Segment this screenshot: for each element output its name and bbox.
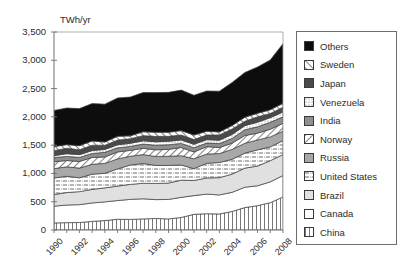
- legend-label: Brazil: [320, 190, 344, 201]
- y-tick-label: 1,000: [2, 167, 46, 178]
- legend-label: India: [320, 115, 341, 126]
- y-tick-label: 500: [2, 196, 46, 207]
- legend-item-canada[interactable]: Canada: [304, 204, 396, 223]
- stacked-area-chart: TWh/yr: [0, 0, 402, 270]
- y-tick-label: 1,500: [2, 139, 46, 150]
- legend-label: Norway: [320, 134, 352, 145]
- legend-swatch-icon: [304, 41, 314, 51]
- legend-item-norway[interactable]: Norway: [304, 130, 396, 149]
- legend-swatch-icon: [304, 227, 314, 237]
- legend-swatch-icon: [304, 60, 314, 70]
- legend-item-others[interactable]: Others: [304, 37, 396, 56]
- legend-label: China: [320, 227, 345, 238]
- legend-label: Canada: [320, 208, 353, 219]
- legend-item-japan[interactable]: Japan: [304, 74, 396, 93]
- legend-item-india[interactable]: India: [304, 111, 396, 130]
- legend-swatch-icon: [304, 134, 314, 144]
- legend-item-venezuela[interactable]: Venezuela: [304, 93, 396, 112]
- legend-item-russia[interactable]: Russia: [304, 149, 396, 168]
- y-tick-label: 3,500: [2, 26, 46, 37]
- y-tick-label: 3,000: [2, 54, 46, 65]
- legend-swatch-icon: [304, 209, 314, 219]
- legend-label: Venezuela: [320, 97, 364, 108]
- legend-swatch-icon: [304, 171, 314, 181]
- y-tick-label: 2,500: [2, 83, 46, 94]
- legend-label: Japan: [320, 78, 346, 89]
- legend-label: United States: [320, 171, 377, 182]
- legend-swatch-icon: [304, 97, 314, 107]
- y-tick-label: 2,000: [2, 111, 46, 122]
- legend-label: Others: [320, 41, 349, 52]
- legend-swatch-icon: [304, 116, 314, 126]
- legend-label: Russia: [320, 152, 349, 163]
- y-tick-label: 0: [2, 224, 46, 235]
- legend-label: Sweden: [320, 59, 354, 70]
- legend-swatch-icon: [304, 153, 314, 163]
- legend-item-china[interactable]: China: [304, 223, 396, 242]
- legend-item-sweden[interactable]: Sweden: [304, 56, 396, 75]
- legend-item-brazil[interactable]: Brazil: [304, 186, 396, 205]
- chart-legend: OthersSwedenJapanVenezuelaIndiaNorwayRus…: [296, 31, 397, 245]
- legend-item-united-states[interactable]: United States: [304, 167, 396, 186]
- legend-swatch-icon: [304, 78, 314, 88]
- legend-swatch-icon: [304, 190, 314, 200]
